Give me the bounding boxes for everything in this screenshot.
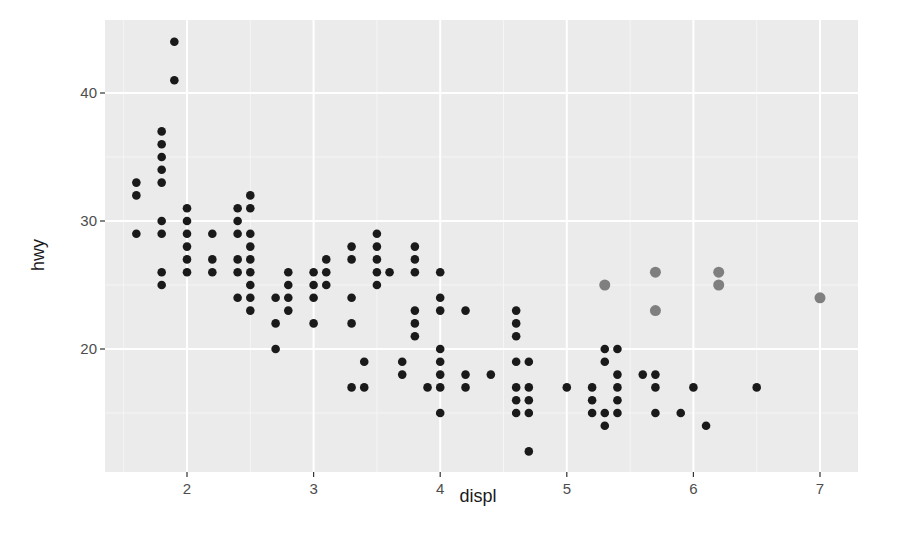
data-point (271, 319, 280, 328)
data-point (284, 268, 293, 277)
data-point (373, 281, 382, 290)
data-point (689, 383, 698, 392)
data-point (132, 191, 141, 200)
data-point (347, 242, 356, 251)
data-point (600, 345, 609, 354)
data-point (512, 319, 521, 328)
data-point (309, 294, 318, 303)
data-point (411, 332, 420, 341)
data-point (347, 255, 356, 264)
data-point (246, 191, 255, 200)
data-point (436, 370, 445, 379)
data-point (436, 409, 445, 418)
data-point (322, 281, 331, 290)
y-axis-title: hwy (28, 239, 48, 271)
y-tick-label: 20 (80, 340, 97, 357)
data-point (512, 358, 521, 367)
data-point (411, 268, 420, 277)
data-point (613, 383, 622, 392)
data-point (525, 409, 534, 418)
data-point (183, 230, 192, 239)
data-point (170, 38, 179, 47)
x-tick-label: 4 (436, 480, 444, 497)
highlighted-point (650, 267, 661, 278)
data-point (651, 409, 660, 418)
data-point (284, 281, 293, 290)
data-point (347, 294, 356, 303)
data-point (525, 383, 534, 392)
data-point (347, 319, 356, 328)
data-point (525, 358, 534, 367)
data-point (208, 230, 217, 239)
data-point (651, 383, 660, 392)
data-point (347, 383, 356, 392)
data-point (436, 306, 445, 315)
data-point (385, 268, 394, 277)
data-point (613, 409, 622, 418)
data-point (271, 345, 280, 354)
data-point (411, 319, 420, 328)
highlighted-point (713, 267, 724, 278)
y-tick-label: 30 (80, 212, 97, 229)
data-point (411, 306, 420, 315)
data-point (373, 255, 382, 264)
data-point (246, 294, 255, 303)
data-point (411, 242, 420, 251)
data-point (322, 268, 331, 277)
data-point (436, 383, 445, 392)
data-point (132, 230, 141, 239)
data-point (398, 370, 407, 379)
data-point (436, 358, 445, 367)
x-tick-label: 5 (563, 480, 571, 497)
data-point (233, 268, 242, 277)
data-point (246, 268, 255, 277)
data-point (600, 358, 609, 367)
data-point (373, 230, 382, 239)
data-point (157, 127, 166, 136)
x-tick-label: 3 (309, 480, 317, 497)
data-point (246, 306, 255, 315)
data-point (246, 281, 255, 290)
data-point (360, 358, 369, 367)
data-point (309, 319, 318, 328)
data-point (373, 268, 382, 277)
data-point (512, 383, 521, 392)
data-point (588, 383, 597, 392)
data-point (638, 370, 647, 379)
data-point (246, 230, 255, 239)
data-point (512, 332, 521, 341)
data-point (322, 255, 331, 264)
data-point (487, 370, 496, 379)
x-axis-title: displ (459, 486, 496, 506)
data-point (183, 255, 192, 264)
data-point (208, 268, 217, 277)
data-point (170, 76, 179, 85)
data-point (157, 166, 166, 175)
data-point (588, 396, 597, 405)
data-point (246, 242, 255, 251)
data-point (157, 153, 166, 162)
plot-panel (105, 20, 858, 472)
data-point (436, 345, 445, 354)
data-point (588, 409, 597, 418)
data-point (600, 422, 609, 431)
data-point (525, 396, 534, 405)
data-point (233, 204, 242, 213)
data-point (436, 294, 445, 303)
data-point (373, 242, 382, 251)
data-point (233, 294, 242, 303)
data-point (132, 178, 141, 187)
data-point (461, 306, 470, 315)
data-point (600, 409, 609, 418)
data-point (183, 242, 192, 251)
data-point (157, 178, 166, 187)
data-point (436, 268, 445, 277)
highlighted-point (815, 292, 826, 303)
x-tick-label: 2 (183, 480, 191, 497)
data-point (613, 345, 622, 354)
data-point (461, 383, 470, 392)
x-tick-label: 6 (689, 480, 697, 497)
data-point (183, 268, 192, 277)
data-point (398, 358, 407, 367)
x-axis: 234567 (183, 472, 824, 497)
